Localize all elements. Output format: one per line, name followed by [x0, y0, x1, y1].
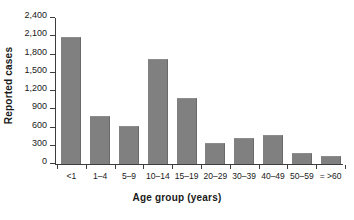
- y-axis-tick: 2,100: [50, 35, 55, 36]
- y-axis-tick-label: 1,200: [24, 83, 47, 93]
- bar: [263, 135, 283, 164]
- x-axis-tick-label: 40–49: [261, 171, 285, 181]
- x-axis-title-text: Age group (years): [133, 192, 222, 203]
- x-axis-tick: [172, 165, 173, 169]
- y-axis-tick: 300: [50, 145, 55, 146]
- y-axis-title: Reported cases: [0, 0, 18, 170]
- bar: [148, 59, 168, 164]
- y-axis-tick: 1,500: [50, 72, 55, 73]
- bar: [321, 156, 341, 164]
- x-axis-title: Age group (years): [0, 192, 354, 203]
- x-axis-line: [55, 164, 343, 165]
- x-axis-tick: [115, 165, 116, 169]
- plot-area: 03006009001,2001,5001,8002,1002,400 <11–…: [55, 18, 343, 165]
- x-axis-tick-label: = >60: [320, 171, 342, 181]
- y-axis-tick: 0: [50, 163, 55, 164]
- y-axis-line: [55, 18, 56, 165]
- bar: [177, 98, 197, 164]
- y-axis-tick-label: 1,500: [24, 65, 47, 75]
- x-axis-tick: [345, 165, 346, 169]
- x-axis-tick: [86, 165, 87, 169]
- x-axis-tick: [259, 165, 260, 169]
- y-axis-tick: 1,200: [50, 90, 55, 91]
- x-axis-tick-label: 1–4: [93, 171, 107, 181]
- x-axis-tick: [230, 165, 231, 169]
- x-axis-tick: [143, 165, 144, 169]
- y-axis-tick-label: 300: [32, 138, 47, 148]
- x-axis-tick-label: <1: [67, 171, 77, 181]
- x-axis-tick-label: 5–9: [122, 171, 136, 181]
- bar: [292, 153, 312, 164]
- y-axis-tick-label: 2,400: [24, 10, 47, 20]
- y-axis-tick-label: 2,100: [24, 28, 47, 38]
- bar: [61, 37, 81, 164]
- x-axis-tick: [287, 165, 288, 169]
- x-axis-tick: [57, 165, 58, 169]
- bar: [90, 116, 110, 164]
- y-axis-tick: 2,400: [50, 17, 55, 18]
- y-axis-title-text: Reported cases: [4, 46, 15, 123]
- y-axis-tick-label: 600: [32, 120, 47, 130]
- y-axis-tick-label: 900: [32, 101, 47, 111]
- bar: [119, 126, 139, 164]
- y-axis-tick: 900: [50, 108, 55, 109]
- bar: [234, 138, 254, 164]
- x-axis-tick-label: 10–14: [146, 171, 170, 181]
- bar-chart-figure: Reported cases 03006009001,2001,5001,800…: [0, 0, 354, 220]
- y-axis-tick: 1,800: [50, 54, 55, 55]
- y-axis-tick: 600: [50, 127, 55, 128]
- y-axis-tick-label: 0: [42, 156, 47, 166]
- x-axis-tick-label: 30–39: [232, 171, 256, 181]
- x-axis-tick: [201, 165, 202, 169]
- x-axis-tick-label: 20–29: [204, 171, 228, 181]
- x-axis-tick: [316, 165, 317, 169]
- x-axis-tick-label: 15–19: [175, 171, 199, 181]
- bar: [205, 143, 225, 164]
- x-axis-tick-label: 50–59: [290, 171, 314, 181]
- y-axis-tick-label: 1,800: [24, 47, 47, 57]
